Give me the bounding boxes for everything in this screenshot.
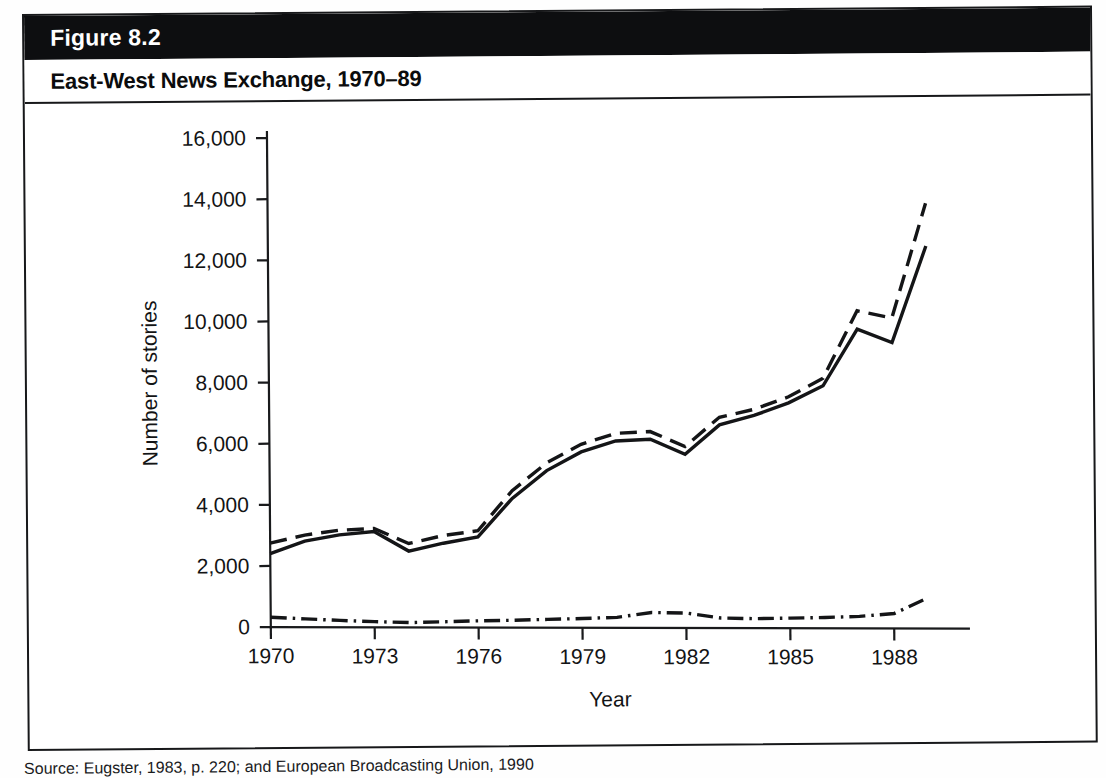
x-tick-label: 1979 xyxy=(559,645,606,668)
x-tick-label: 1985 xyxy=(767,645,814,668)
y-axis-title: Number of stories xyxy=(137,301,161,467)
series-line-eurovision xyxy=(268,246,928,554)
y-tick-label: 2,000 xyxy=(197,554,250,577)
figure-frame: Figure 8.2 East-West News Exchange, 1970… xyxy=(22,6,1098,751)
y-tick-label: 16,000 xyxy=(182,126,246,150)
chart-legend: CombinedIntervisionEurovision xyxy=(288,741,946,749)
x-tick-label: 1988 xyxy=(871,645,918,668)
y-tick-label: 14,000 xyxy=(182,187,246,211)
legend-label-intervision: Intervision xyxy=(608,743,704,749)
figure-number-label: Figure 8.2 xyxy=(50,24,161,52)
x-tick-label: 1982 xyxy=(663,645,710,668)
y-tick-label: 12,000 xyxy=(183,248,247,272)
y-tick-label: 8,000 xyxy=(195,371,248,394)
series-lines xyxy=(268,203,929,623)
figure-title: East-West News Exchange, 1970–89 xyxy=(50,66,421,95)
x-tick-label: 1973 xyxy=(351,644,398,667)
series-line-intervision xyxy=(271,597,929,623)
legend-label-combined: Combined xyxy=(376,744,472,748)
source-note: Source: Eugster, 1983, p. 220; and Europ… xyxy=(24,756,534,778)
y-tick-label: 6,000 xyxy=(196,432,249,455)
y-tick-label: 4,000 xyxy=(196,493,249,516)
y-tick-label: 0 xyxy=(238,615,250,638)
x-axis-title: Year xyxy=(589,687,632,710)
x-tick-label: 1970 xyxy=(248,644,295,667)
x-axis-ticks: 1970197319761979198219851988 xyxy=(247,622,917,674)
page-canvas: Figure 8.2 East-West News Exchange, 1970… xyxy=(0,0,1106,778)
line-chart: 02,0004,0006,0008,00010,00012,00014,0001… xyxy=(25,96,1096,749)
x-tick-label: 1976 xyxy=(455,644,502,667)
chart-area: 02,0004,0006,0008,00010,00012,00014,0001… xyxy=(25,96,1096,749)
y-tick-label: 10,000 xyxy=(183,310,247,334)
legend-label-eurovision: Eurovision xyxy=(848,741,946,749)
y-axis-ticks: 02,0004,0006,0008,00010,00012,00014,0001… xyxy=(182,126,271,639)
